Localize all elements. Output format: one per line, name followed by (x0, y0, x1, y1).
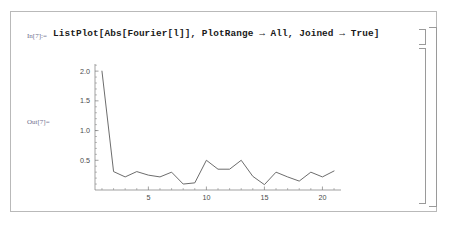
plot-svg: 0.51.01.52.05101520 (55, 50, 345, 200)
svg-text:2.0: 2.0 (80, 67, 90, 76)
svg-text:1.5: 1.5 (80, 96, 90, 105)
input-cell[interactable]: In[7]:= ListPlot[Abs[Fourier[l]], PlotRa… (27, 28, 397, 46)
output-cell[interactable]: Out[7]= 0.51.01.52.05101520 (27, 50, 397, 200)
svg-text:0.5: 0.5 (80, 156, 90, 165)
plot-tick-marks (95, 65, 334, 190)
output-prompt-label: Out[7]= (27, 118, 50, 126)
plot-axes (95, 64, 341, 190)
svg-text:5: 5 (146, 193, 150, 200)
svg-text:1.0: 1.0 (80, 126, 90, 135)
cell-group-bracket[interactable] (429, 27, 437, 207)
svg-text:20: 20 (318, 193, 326, 200)
notebook-window-frame: In[7]:= ListPlot[Abs[Fourier[l]], PlotRa… (10, 11, 437, 212)
svg-text:15: 15 (260, 193, 268, 200)
input-cell-bracket[interactable] (419, 29, 426, 45)
plot-data-series (102, 71, 334, 185)
output-cell-bracket[interactable] (419, 48, 426, 204)
svg-text:10: 10 (202, 193, 210, 200)
input-code-text[interactable]: ListPlot[Abs[Fourier[l]], PlotRange → Al… (53, 28, 379, 39)
input-prompt-label: In[7]:= (27, 32, 47, 40)
list-plot-graphic[interactable]: 0.51.01.52.05101520 (55, 50, 345, 200)
screenshot-root: In[7]:= ListPlot[Abs[Fourier[l]], PlotRa… (0, 0, 449, 225)
plot-tick-labels: 0.51.01.52.05101520 (80, 67, 326, 200)
